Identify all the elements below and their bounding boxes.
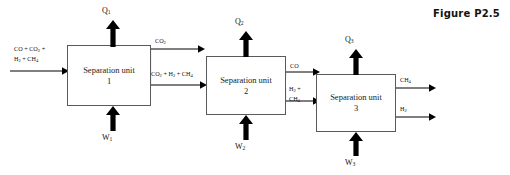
unit-3-work-subscript: 3 — [353, 161, 356, 167]
separation-unit-1-number: 1 — [107, 76, 111, 87]
unit-1-bottom-species-a: CO — [151, 70, 160, 77]
separation-unit-2-box: Separation unit 2 — [206, 56, 286, 115]
unit-1-work-label: W1 — [102, 133, 124, 144]
separation-unit-2-title: Separation unit — [220, 75, 272, 86]
unit-2-bottom-plus: + — [296, 85, 301, 92]
separation-unit-3-box: Separation unit 3 — [316, 74, 396, 132]
unit-1-top-outlet-label: CO2 — [155, 37, 166, 47]
unit-2-top-outlet-label: CO — [290, 62, 299, 70]
figure-caption: Figure P2.5 — [433, 8, 500, 19]
unit-2-work-subscript: 2 — [243, 145, 246, 151]
unit-3-work-label: W3 — [345, 158, 367, 169]
unit-1-top-outlet-species: CO — [155, 37, 164, 44]
separation-unit-3-title: Separation unit — [330, 92, 382, 103]
unit-3-bottom-outlet-label: H2 — [400, 105, 407, 115]
unit-2-top-outlet-species: CO — [290, 62, 299, 69]
separation-unit-1-title: Separation unit — [83, 65, 135, 76]
unit-1-work-subscript: 1 — [110, 136, 113, 142]
unit-2-work-symbol: W — [235, 142, 243, 151]
unit-1-bottom-species-b: + H — [162, 70, 173, 77]
unit-1-heat-subscript: 1 — [108, 9, 111, 15]
unit-3-heat-arrow — [348, 49, 364, 75]
unit-1-top-outlet-subscript: 2 — [164, 40, 166, 45]
unit-3-heat-label: Q3 — [345, 35, 367, 46]
unit-3-top-outlet-subscript: 4 — [409, 79, 411, 84]
unit-3-bottom-outlet-subscript: 2 — [404, 108, 406, 113]
unit-3-heat-subscript: 3 — [351, 38, 354, 44]
feed-stream-arrow — [10, 66, 70, 76]
unit-2-work-arrow — [238, 115, 254, 140]
unit-2-heat-label: Q2 — [235, 17, 257, 28]
unit-1-heat-label: Q1 — [102, 6, 124, 17]
unit-1-bottom-sub-3: 4 — [190, 73, 192, 78]
unit-1-work-symbol: W — [102, 133, 110, 142]
feed-label-line1-a: CO + CO — [14, 45, 38, 52]
unit-1-work-arrow — [105, 106, 121, 131]
unit-2-bottom-species-b: CH — [289, 95, 298, 102]
unit-1-bottom-species-c: + CH — [175, 70, 190, 77]
feed-stream-label: CO + CO2 + H2 + CH4 — [14, 45, 45, 65]
unit-3-top-outlet-label: CH4 — [400, 76, 411, 86]
unit-2-heat-subscript: 2 — [241, 20, 244, 26]
unit-2-bottom-sub-2: 4 — [298, 98, 300, 103]
figure-canvas: Figure P2.5 Separation unit 1 CO + CO2 +… — [0, 0, 510, 175]
feed-label-line1-b: + — [40, 45, 45, 52]
unit-3-work-symbol: W — [345, 158, 353, 167]
unit-1-heat-arrow — [105, 20, 121, 47]
unit-2-heat-arrow — [238, 31, 254, 57]
unit-1-bottom-outlet-label: CO2 + H2 + CH4 — [151, 70, 193, 80]
separation-unit-2-number: 2 — [244, 86, 248, 97]
unit-3-work-arrow — [348, 132, 364, 156]
unit-2-bottom-outlet-label: H2 + CH4 — [289, 85, 301, 105]
feed-label-line2-b: + CH — [21, 55, 36, 62]
unit-3-top-outlet-species: CH — [400, 76, 409, 83]
separation-unit-3-number: 3 — [354, 103, 358, 114]
unit-2-work-label: W2 — [235, 142, 257, 153]
feed-label-line2-sub2: 4 — [36, 58, 38, 63]
separation-unit-1-box: Separation unit 1 — [67, 45, 151, 106]
